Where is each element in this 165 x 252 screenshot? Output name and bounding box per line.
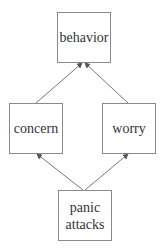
edge-concern-to-behavior <box>36 63 82 103</box>
node-label: behavior <box>60 29 109 46</box>
node-panic-attacks: panic attacks <box>58 190 112 241</box>
node-label: concern <box>14 120 58 137</box>
node-worry: worry <box>102 103 156 154</box>
node-behavior: behavior <box>57 12 111 63</box>
edge-panic-to-worry <box>85 154 128 190</box>
node-label: worry <box>112 120 145 137</box>
node-concern: concern <box>9 103 63 154</box>
edge-worry-to-behavior <box>85 63 128 103</box>
node-label: panic attacks <box>65 199 105 233</box>
edge-panic-to-concern <box>37 154 83 190</box>
